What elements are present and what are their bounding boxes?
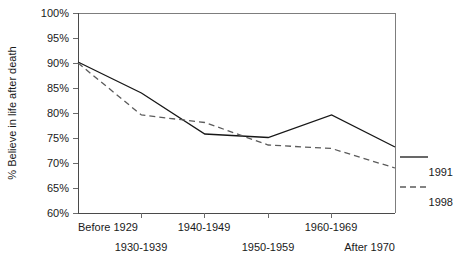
legend-label-1991: 1991	[429, 166, 453, 178]
y-tick-label-75: 75%	[47, 132, 69, 144]
y-axis-tick-labels: 100% 95% 90% 85% 80% 75% 70% 65% 60%	[41, 7, 69, 219]
legend-label-1998: 1998	[429, 196, 453, 208]
plot-frame	[78, 13, 395, 213]
line-chart: 100% 95% 90% 85% 80% 75% 70% 65% 60% % B…	[0, 0, 457, 271]
x-label-1960-1969: 1960-1969	[305, 221, 358, 233]
y-tick-label-85: 85%	[47, 82, 69, 94]
series-line-1998	[78, 63, 395, 168]
y-tick-label-80: 80%	[47, 107, 69, 119]
x-axis-category-labels: Before 1929 1930-1939 1940-1949 1950-195…	[78, 221, 395, 253]
y-tick-label-60: 60%	[47, 207, 69, 219]
x-axis-ticks	[141, 213, 331, 218]
chart-container: 100% 95% 90% 85% 80% 75% 70% 65% 60% % B…	[0, 0, 457, 271]
x-label-1950-1959: 1950-1959	[242, 241, 295, 253]
y-tick-label-95: 95%	[47, 32, 69, 44]
y-axis-ticks	[73, 13, 78, 213]
y-tick-label-100: 100%	[41, 7, 69, 19]
x-label-after-1970: After 1970	[344, 241, 395, 253]
y-axis-title: % Believe in life after death	[6, 46, 18, 179]
chart-legend: 1991 1998	[400, 157, 453, 208]
y-tick-label-70: 70%	[47, 157, 69, 169]
y-tick-label-90: 90%	[47, 57, 69, 69]
x-label-before-1929: Before 1929	[78, 221, 138, 233]
x-label-1930-1939: 1930-1939	[115, 241, 168, 253]
x-label-1940-1949: 1940-1949	[178, 221, 231, 233]
y-tick-label-65: 65%	[47, 182, 69, 194]
series-line-1991	[78, 62, 395, 147]
